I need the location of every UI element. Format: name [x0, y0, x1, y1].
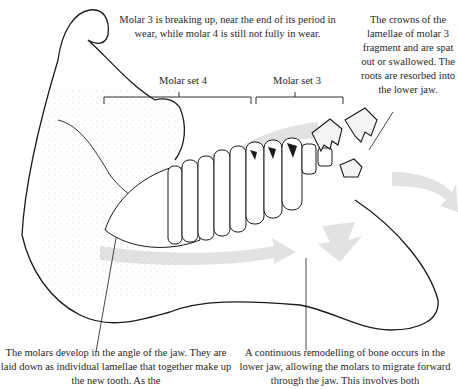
label-molar-set-3: Molar set 3	[262, 74, 332, 88]
tooth-fragments	[312, 108, 377, 177]
caption-bone-remodelling: A continuous remodelling of bone occurs …	[232, 346, 458, 388]
caption-molars-develop: The molars develop in the angle of the j…	[0, 346, 232, 388]
caption-molar-3-breaking: Molar 3 is breaking up, near the end of …	[115, 13, 340, 41]
caption-crowns-fragment: The crowns of the lamellae of molar 3 fr…	[358, 13, 458, 97]
label-molar-set-4: Molar set 4	[148, 74, 218, 88]
